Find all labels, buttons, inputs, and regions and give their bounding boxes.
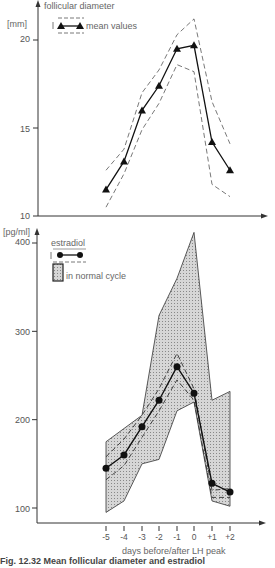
x-tick-0: 0	[184, 532, 204, 542]
x-tick-m4: -4	[114, 532, 134, 542]
x-tick-p1: +1	[202, 532, 222, 542]
bottom-legend-band: in normal cycle	[66, 271, 126, 281]
figure-caption: Fig. 12.32 Mean follicular diameter and …	[0, 556, 205, 566]
y-tick-15: 15	[0, 124, 30, 134]
bottom-unit: [pg/ml]	[3, 227, 30, 237]
x-tick-m2: -2	[149, 532, 169, 542]
top-legend-label: mean values	[86, 21, 137, 31]
chart-canvas	[0, 0, 275, 568]
y-tick-400: 400	[0, 237, 30, 247]
top-unit: [mm]	[7, 19, 27, 29]
bottom-legend-title: estradiol	[51, 238, 85, 248]
y-tick-300: 300	[0, 327, 30, 337]
x-tick-p2: +2	[220, 532, 240, 542]
y-tick-200: 200	[0, 415, 30, 425]
x-axis-label: days before/after LH peak	[122, 546, 226, 556]
x-tick-m5: -5	[96, 532, 116, 542]
y-tick-20: 20	[0, 34, 30, 44]
top-title: follicular diameter	[44, 1, 115, 11]
follicular-diameter-chart	[33, 0, 268, 219]
y-tick-100: 100	[0, 504, 30, 514]
y-tick-10: 10	[0, 211, 30, 221]
